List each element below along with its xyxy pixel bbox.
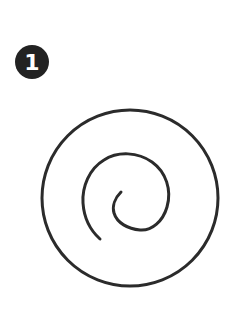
spiral-line [83, 154, 169, 239]
outer-circle [42, 110, 218, 286]
spiral-in-circle-illustration [0, 0, 242, 326]
